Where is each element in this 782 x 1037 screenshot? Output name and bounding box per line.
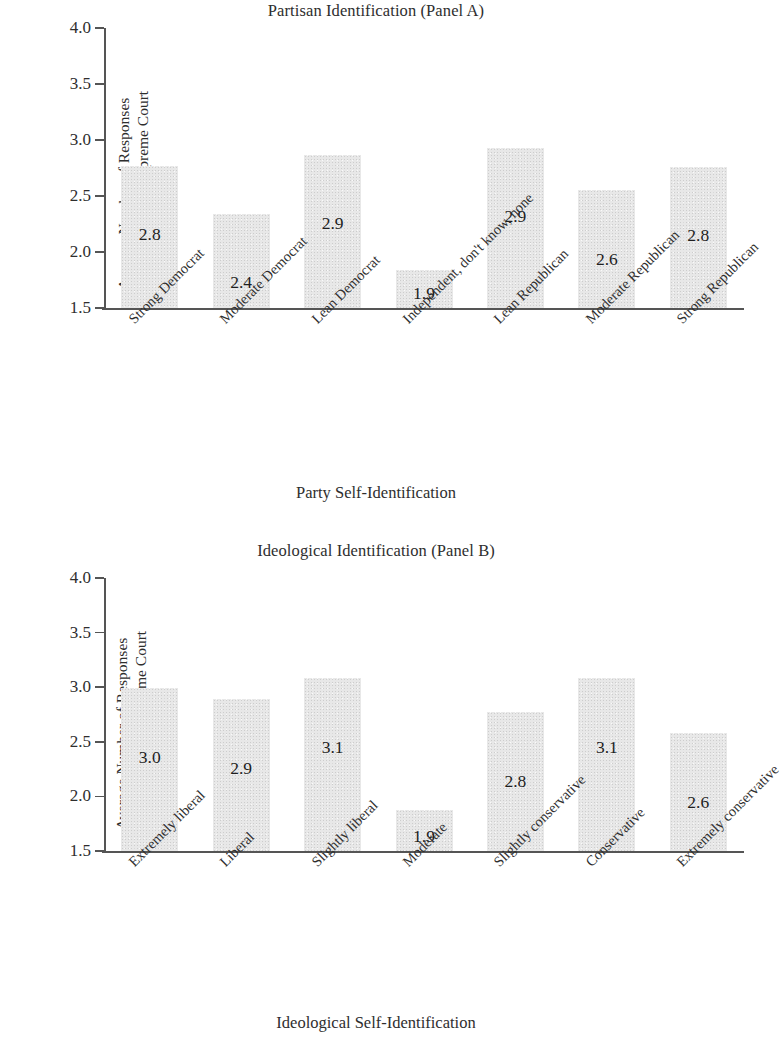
panel-b-x-axis-title: Ideological Self-Identification xyxy=(0,1013,752,1033)
panel-b-y-tick-3.0: 3.0 xyxy=(95,686,104,688)
panel-a-y-tick-2.5: 2.5 xyxy=(95,195,104,197)
panel-a-y-tick-label: 1.5 xyxy=(70,299,91,316)
bar: 2.9 xyxy=(213,699,270,851)
panel-b-y-tick-3.5: 3.5 xyxy=(95,632,104,634)
panel-a-x-axis-title: Party Self-Identification xyxy=(0,483,752,503)
panel-b-y-tick-2.0: 2.0 xyxy=(95,796,104,798)
bar-value-label: 3.0 xyxy=(121,749,178,767)
panel-a-y-tick-3.5: 3.5 xyxy=(95,83,104,85)
bar-value-label: 2.8 xyxy=(487,773,544,791)
panel-b-y-tick-4.0: 4.0 xyxy=(95,577,104,579)
panel-b-y-tick-label: 2.5 xyxy=(70,733,91,750)
panel-a-y-tick-label: 2.0 xyxy=(70,243,91,260)
bar-value-label: 3.1 xyxy=(304,739,361,757)
panel-b-y-axis-line xyxy=(104,578,106,851)
panel-a-y-tick-2.0: 2.0 xyxy=(95,251,104,253)
panel-a-title: Partisan Identification (Panel A) xyxy=(0,1,752,21)
panel-a: Partisan Identification (Panel A) Averag… xyxy=(0,0,752,515)
panel-b-y-tick-label: 3.5 xyxy=(70,624,91,641)
panel-a-y-axis-line xyxy=(104,28,106,308)
bar-value-label: 2.9 xyxy=(213,760,270,778)
bar-value-label: 2.8 xyxy=(121,226,178,244)
panel-a-y-tick-label: 2.5 xyxy=(70,187,91,204)
panel-b-title: Ideological Identification (Panel B) xyxy=(0,541,752,561)
panel-b: Ideological Identification (Panel B) Ave… xyxy=(0,530,752,1037)
panel-a-y-tick-3.0: 3.0 xyxy=(95,139,104,141)
panel-a-y-tick-4.0: 4.0 xyxy=(95,27,104,29)
bar-value-label: 2.6 xyxy=(578,251,635,269)
bar-value-label: 2.9 xyxy=(304,215,361,233)
panel-b-y-tick-1.5: 1.5 xyxy=(95,850,104,852)
panel-a-y-tick-label: 3.0 xyxy=(70,131,91,148)
bar-value-label: 3.1 xyxy=(578,739,635,757)
panel-b-y-tick-2.5: 2.5 xyxy=(95,741,104,743)
bar-value-label: 2.6 xyxy=(670,794,727,812)
panel-a-y-tick-label: 4.0 xyxy=(70,19,91,36)
panel-a-y-tick-1.5: 1.5 xyxy=(95,307,104,309)
panel-b-y-tick-label: 4.0 xyxy=(70,569,91,586)
panel-a-y-tick-label: 3.5 xyxy=(70,75,91,92)
panel-b-plot-area: Average Number of Responses Supportive o… xyxy=(104,578,744,851)
panel-b-y-tick-label: 3.0 xyxy=(70,678,91,695)
panel-b-y-tick-label: 1.5 xyxy=(70,842,91,859)
panel-b-y-tick-label: 2.0 xyxy=(70,788,91,805)
